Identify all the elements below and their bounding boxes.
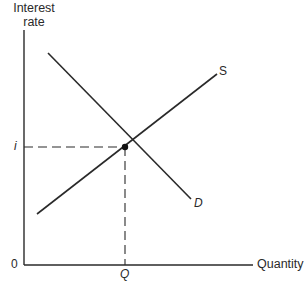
supply-curve bbox=[37, 74, 217, 214]
demand-curve bbox=[48, 53, 191, 199]
origin-label: 0 bbox=[11, 258, 18, 271]
equilibrium-quantity-label: Q bbox=[120, 268, 129, 281]
x-axis-title: Quantity bbox=[257, 258, 304, 271]
chart-plot bbox=[0, 0, 308, 281]
demand-curve-label: D bbox=[194, 197, 203, 210]
equilibrium-point bbox=[122, 144, 128, 150]
equilibrium-rate-label: i bbox=[14, 140, 17, 153]
supply-curve-label: S bbox=[219, 65, 227, 78]
